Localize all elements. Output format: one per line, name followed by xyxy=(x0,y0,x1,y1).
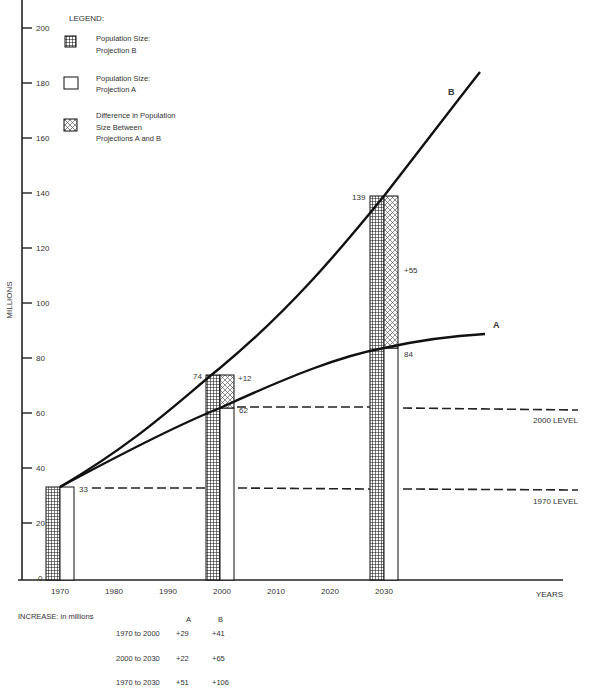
y-tick-label: 120 xyxy=(36,244,50,253)
row-value-a: +51 xyxy=(176,678,189,687)
x-tick-label: 1970 xyxy=(51,587,69,596)
curve-projection-a xyxy=(60,334,485,487)
legend-label-diff-line3: Projections A and B xyxy=(96,134,161,143)
legend-label-b-line1: Population Size: xyxy=(96,34,150,43)
row-period: 1970 to 2030 xyxy=(116,678,160,687)
y-tick-label: 0 xyxy=(38,574,43,583)
increase-table: INCREASE: in millions A B 1970 to 2000 +… xyxy=(18,612,229,687)
curve-label-a: A xyxy=(493,320,500,330)
legend-swatch-difference xyxy=(64,119,77,131)
reference-label-1970: 1970 LEVEL xyxy=(533,497,578,506)
row-value-a: +29 xyxy=(176,629,189,638)
bar-label-diff-2000: +12 xyxy=(238,374,252,383)
bar-group-2000: 74 +12 62 xyxy=(193,372,252,580)
x-tick-label: 2010 xyxy=(267,587,285,596)
legend-label-a-line1: Population Size: xyxy=(96,74,150,83)
y-tick-label: 200 xyxy=(36,24,50,33)
legend-swatch-projection-b xyxy=(65,36,76,47)
y-tick-label: 60 xyxy=(36,409,45,418)
bar-label-b-2000: 74 xyxy=(193,372,202,381)
y-tick-label: 40 xyxy=(36,464,45,473)
reference-line-1970: 1970 LEVEL xyxy=(92,488,579,506)
legend-swatch-projection-a xyxy=(64,77,78,89)
bar-label-a-2030: 84 xyxy=(404,350,413,359)
x-tick-label: 2000 xyxy=(213,587,231,596)
x-ticks: 1970198019902000201020202030 xyxy=(51,587,393,596)
bar-projection-a-1970 xyxy=(60,487,74,580)
y-axis-label: MILLIONS xyxy=(5,281,14,318)
curve-label-b: B xyxy=(448,87,455,97)
bar-projection-b-2000 xyxy=(206,375,220,580)
bar-group-1970: 33 xyxy=(46,485,88,580)
bar-difference-2030 xyxy=(384,196,398,348)
column-header-b: B xyxy=(218,615,223,624)
bar-label-1970: 33 xyxy=(79,485,88,494)
y-tick-label: 160 xyxy=(36,134,50,143)
row-period: 1970 to 2000 xyxy=(116,629,160,638)
y-tick-label: 100 xyxy=(36,299,50,308)
legend-label-diff-line1: Difference in Population xyxy=(96,111,176,120)
bar-label-a-2000: 62 xyxy=(239,406,248,415)
x-tick-label: 2030 xyxy=(375,587,393,596)
column-header-a: A xyxy=(186,615,191,624)
row-value-b: +41 xyxy=(212,629,225,638)
x-tick-label: 1990 xyxy=(159,587,177,596)
y-tick-label: 80 xyxy=(36,354,45,363)
x-axis-label: YEARS xyxy=(536,590,563,599)
bar-label-diff-2030: +55 xyxy=(404,266,418,275)
legend-label-a-line2: Projection A xyxy=(96,85,136,94)
legend-title: LEGEND: xyxy=(69,14,104,23)
x-tick-label: 2020 xyxy=(321,587,339,596)
bar-projection-a-2030 xyxy=(384,348,398,580)
reference-line-2000: 2000 LEVEL xyxy=(237,407,579,425)
legend-label-diff-line2: Size Between xyxy=(96,123,142,132)
row-period: 2000 to 2030 xyxy=(116,654,160,663)
bar-label-b-2030: 139 xyxy=(352,193,366,202)
y-tick-label: 20 xyxy=(36,519,45,528)
row-value-b: +65 xyxy=(212,654,225,663)
row-value-a: +22 xyxy=(176,654,189,663)
bar-projection-b-2030 xyxy=(370,196,384,580)
population-projection-chart: 020406080100120140160180200 197019801990… xyxy=(0,0,591,692)
reference-label-2000: 2000 LEVEL xyxy=(533,416,578,425)
x-tick-label: 1980 xyxy=(105,587,123,596)
legend-label-b-line2: Projection B xyxy=(96,46,136,55)
bar-group-2030: 139 +55 84 xyxy=(352,193,418,580)
bar-projection-a-2000 xyxy=(220,408,234,580)
y-tick-label: 140 xyxy=(36,189,50,198)
row-value-b: +106 xyxy=(212,678,229,687)
bar-projection-b-1970 xyxy=(46,487,60,580)
legend: LEGEND: Population Size: Projection B Po… xyxy=(64,14,176,143)
y-tick-label: 180 xyxy=(36,79,50,88)
increase-table-title: INCREASE: in millions xyxy=(18,612,94,621)
